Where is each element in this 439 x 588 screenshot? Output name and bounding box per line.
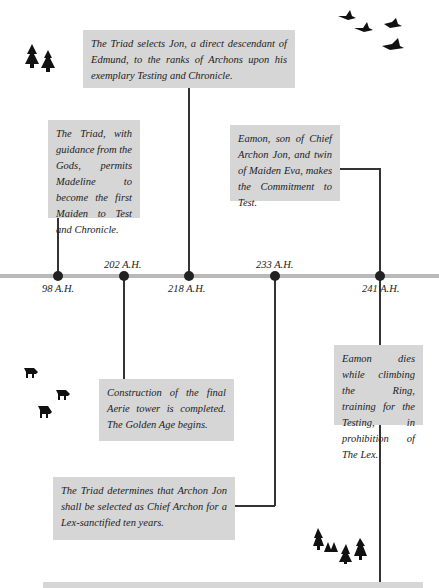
flying-geese-icon: [336, 8, 436, 56]
date-label-241: 241 A.H.: [362, 283, 399, 294]
date-label-98: 98 A.H.: [42, 283, 74, 294]
connector-241-h: [340, 168, 380, 170]
boar-herd-icon: [22, 364, 78, 418]
date-label-202: 202 A.H.: [104, 259, 141, 270]
event-box-241: Eamon, son of Chief Archon Jon, and twin…: [230, 125, 340, 201]
event-box-233: The Triad determines that Archon Jon sha…: [53, 477, 235, 540]
event-box-202: Construction of the final Aerie tower is…: [99, 379, 234, 441]
date-label-218: 218 A.H.: [168, 283, 205, 294]
timeline-axis: [0, 274, 439, 278]
tree-pair-icon: [24, 42, 60, 74]
connector-233-h: [235, 505, 275, 507]
event-box-eamon-death: Eamon dies while climbing the Ring, trai…: [334, 345, 423, 425]
connector-202: [123, 276, 125, 379]
timeline-dot-241: [375, 271, 385, 281]
timeline-dot-233: [270, 271, 280, 281]
connector-233: [274, 276, 276, 506]
event-box-218: The Triad selects Jon, a direct descenda…: [83, 30, 295, 88]
timeline-dot-218: [184, 271, 194, 281]
tree-cluster-icon: [312, 528, 370, 564]
connector-218: [188, 88, 190, 276]
date-label-233: 233 A.H.: [256, 259, 293, 270]
timeline-dot-202: [119, 271, 129, 281]
event-box-98: The Triad, with guidance from the Gods, …: [48, 120, 140, 218]
timeline-dot-98: [53, 271, 63, 281]
bottom-event-box: [43, 582, 423, 588]
